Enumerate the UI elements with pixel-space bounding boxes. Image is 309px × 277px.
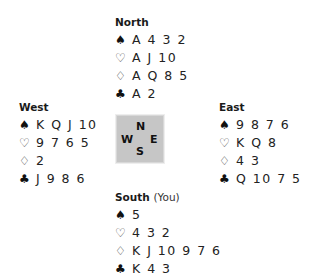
south-diamonds-cards: K J 10 9 7 6 — [132, 243, 222, 258]
east-hand: East ♠9 8 7 6 ♡K Q 8 ♢4 3 ♣Q 10 7 5 — [219, 98, 302, 188]
spade-icon: ♠ — [219, 116, 236, 134]
south-diamonds: ♢K J 10 9 7 6 — [115, 242, 222, 260]
spade-icon: ♠ — [115, 31, 132, 49]
spade-icon: ♠ — [19, 116, 36, 134]
north-title: North — [115, 13, 189, 31]
diamond-icon: ♢ — [219, 152, 236, 170]
west-clubs: ♣J 9 8 6 — [19, 170, 98, 188]
south-label: South — [115, 191, 150, 203]
club-icon: ♣ — [115, 260, 132, 277]
you-tag: (You) — [153, 191, 179, 203]
west-label: West — [19, 101, 49, 113]
compass-box: N W E S — [116, 115, 164, 163]
north-diamonds: ♢A Q 8 5 — [115, 67, 189, 85]
heart-icon: ♡ — [19, 134, 36, 152]
heart-icon: ♡ — [115, 49, 132, 67]
west-hearts: ♡9 7 6 5 — [19, 134, 98, 152]
north-hand: North ♠A 4 3 2 ♡A J 10 ♢A Q 8 5 ♣A 2 — [115, 13, 189, 103]
south-hearts-cards: 4 3 2 — [132, 225, 171, 240]
north-diamonds-cards: A Q 8 5 — [132, 68, 189, 83]
south-clubs: ♣K 4 3 — [115, 260, 222, 277]
club-icon: ♣ — [219, 170, 236, 188]
north-spades: ♠A 4 3 2 — [115, 31, 189, 49]
south-spades: ♠5 — [115, 206, 222, 224]
compass-west: W — [121, 134, 133, 145]
east-diamonds: ♢4 3 — [219, 152, 302, 170]
west-diamonds-cards: 2 — [36, 153, 45, 168]
north-spades-cards: A 4 3 2 — [132, 32, 187, 47]
heart-icon: ♡ — [115, 224, 132, 242]
west-clubs-cards: J 9 8 6 — [36, 171, 86, 186]
east-clubs-cards: Q 10 7 5 — [236, 171, 302, 186]
east-diamonds-cards: 4 3 — [236, 153, 260, 168]
west-hand: West ♠K Q J 10 ♡9 7 6 5 ♢2 ♣J 9 8 6 — [19, 98, 98, 188]
east-title: East — [219, 98, 302, 116]
west-diamonds: ♢2 — [19, 152, 98, 170]
west-spades: ♠K Q J 10 — [19, 116, 98, 134]
east-hearts: ♡K Q 8 — [219, 134, 302, 152]
north-hearts: ♡A J 10 — [115, 49, 189, 67]
diamond-icon: ♢ — [115, 242, 132, 260]
north-clubs-cards: A 2 — [132, 86, 157, 101]
west-spades-cards: K Q J 10 — [36, 117, 98, 132]
compass-north: N — [136, 121, 145, 132]
spade-icon: ♠ — [115, 206, 132, 224]
compass-east: E — [150, 134, 158, 145]
club-icon: ♣ — [19, 170, 36, 188]
heart-icon: ♡ — [219, 134, 236, 152]
south-title: South (You) — [115, 188, 222, 206]
east-spades-cards: 9 8 7 6 — [236, 117, 290, 132]
club-icon: ♣ — [115, 85, 132, 103]
compass-south: S — [136, 146, 144, 157]
diamond-icon: ♢ — [19, 152, 36, 170]
south-hand: South (You) ♠5 ♡4 3 2 ♢K J 10 9 7 6 ♣K 4… — [115, 188, 222, 277]
south-hearts: ♡4 3 2 — [115, 224, 222, 242]
west-hearts-cards: 9 7 6 5 — [36, 135, 90, 150]
south-spades-cards: 5 — [132, 207, 141, 222]
east-clubs: ♣Q 10 7 5 — [219, 170, 302, 188]
south-clubs-cards: K 4 3 — [132, 261, 172, 276]
east-spades: ♠9 8 7 6 — [219, 116, 302, 134]
north-hearts-cards: A J 10 — [132, 50, 177, 65]
east-hearts-cards: K Q 8 — [236, 135, 277, 150]
diamond-icon: ♢ — [115, 67, 132, 85]
north-label: North — [115, 16, 149, 28]
west-title: West — [19, 98, 98, 116]
north-clubs: ♣A 2 — [115, 85, 189, 103]
east-label: East — [219, 101, 245, 113]
